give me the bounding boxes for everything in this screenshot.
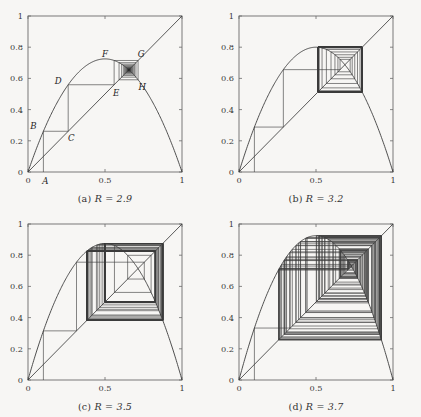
orbit-point-label-D: D [54, 76, 62, 86]
logistic-map-curve [28, 59, 182, 172]
logistic-map-cobweb-figure: 00.5100.20.40.60.81ABCDEFGH (a) R = 2.9 … [0, 0, 421, 417]
y-tick-label: 0.6 [10, 73, 23, 83]
y-tick-label: 0.8 [221, 42, 234, 52]
x-tick-label: 0 [25, 383, 30, 393]
panel-d-caption-prefix: (d) [288, 401, 302, 412]
x-tick-label: 0 [25, 175, 30, 185]
x-tick-label: 1 [179, 383, 184, 393]
y-tick-label: 0.8 [221, 250, 234, 260]
y-tick-label: 0.8 [10, 250, 23, 260]
panel-c-caption: (c) R = 3.5 [0, 401, 210, 412]
panel-a: 00.5100.20.40.60.81ABCDEFGH (a) R = 2.9 [0, 0, 210, 208]
y-tick-label: 0 [18, 167, 23, 177]
cobweb-plot-b: 00.5100.20.40.60.81 [211, 0, 421, 208]
x-tick-label: 0.5 [309, 383, 322, 393]
orbit-point-label-H: H [137, 82, 146, 92]
x-tick-label: 1 [390, 175, 395, 185]
y-tick-label: 0.4 [10, 313, 23, 323]
panel-a-caption: (a) R = 2.9 [0, 193, 210, 204]
panel-d: 00.5100.20.40.60.81 (d) R = 3.7 [211, 208, 421, 416]
panel-b-caption-prefix: (b) [288, 193, 302, 204]
panel-b: 00.5100.20.40.60.81 (b) R = 3.2 [211, 0, 421, 208]
y-tick-label: 1 [229, 219, 234, 229]
x-tick-label: 0.5 [309, 175, 322, 185]
orbit-point-label-A: A [41, 176, 48, 186]
x-tick-label: 1 [179, 175, 184, 185]
panel-c: 00.5100.20.40.60.81 (c) R = 3.5 [0, 208, 210, 416]
orbit-point-label-E: E [112, 88, 120, 98]
y-tick-label: 0.6 [221, 73, 234, 83]
y-tick-label: 0 [229, 167, 234, 177]
logistic-map-curve [239, 47, 393, 172]
y-tick-label: 1 [229, 11, 234, 21]
panel-d-caption-param: R = 3.7 [306, 401, 344, 412]
cobweb-plot-a: 00.5100.20.40.60.81ABCDEFGH [0, 0, 210, 208]
axis-tick-labels: 00.5100.20.40.60.81 [10, 11, 185, 185]
x-tick-label: 0 [236, 383, 241, 393]
y-tick-label: 0.2 [10, 344, 23, 354]
y-tick-label: 0.2 [221, 344, 234, 354]
y-tick-label: 0.6 [10, 281, 23, 291]
cobweb-path [43, 244, 162, 381]
y-tick-label: 0.8 [10, 42, 23, 52]
y-tick-label: 0 [18, 375, 23, 385]
identity-line [239, 16, 393, 172]
y-tick-label: 0.4 [221, 105, 234, 115]
panel-a-caption-param: R = 2.9 [95, 193, 133, 204]
y-tick-label: 0.2 [221, 136, 234, 146]
panel-a-caption-prefix: (a) [78, 193, 92, 204]
y-tick-label: 0.4 [10, 105, 23, 115]
cobweb-plot-c: 00.5100.20.40.60.81 [0, 208, 210, 416]
orbit-point-label-C: C [68, 133, 75, 143]
y-tick-label: 0.6 [221, 281, 234, 291]
panel-b-caption: (b) R = 3.2 [211, 193, 421, 204]
y-tick-label: 1 [18, 11, 23, 21]
orbit-point-label-F: F [101, 49, 109, 59]
x-tick-label: 0 [236, 175, 241, 185]
x-tick-label: 0.5 [98, 175, 111, 185]
y-tick-label: 0.2 [10, 136, 23, 146]
orbit-point-label-B: B [29, 121, 36, 131]
cobweb-plot-d: 00.5100.20.40.60.81 [211, 208, 421, 416]
axis-tick-labels: 00.5100.20.40.60.81 [221, 11, 396, 185]
y-tick-label: 1 [18, 219, 23, 229]
identity-line [28, 16, 182, 172]
y-tick-label: 0 [229, 375, 234, 385]
orbit-point-label-G: G [138, 49, 145, 59]
panel-d-caption: (d) R = 3.7 [211, 401, 421, 412]
panel-c-caption-param: R = 3.5 [94, 401, 132, 412]
x-tick-label: 1 [390, 383, 395, 393]
y-tick-label: 0.4 [221, 313, 234, 323]
panel-b-caption-param: R = 3.2 [306, 193, 344, 204]
panel-c-caption-prefix: (c) [78, 401, 91, 412]
cobweb-path [254, 236, 381, 380]
x-tick-label: 0.5 [98, 383, 111, 393]
